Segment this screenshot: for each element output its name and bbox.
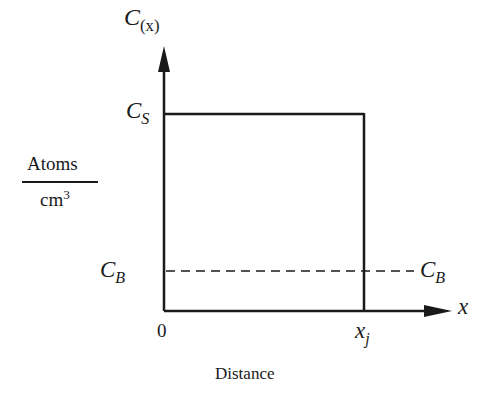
unit-numerator: Atoms xyxy=(27,153,78,175)
surface-concentration-label: CS xyxy=(126,98,149,128)
x-axis-caption: Distance xyxy=(215,364,274,384)
y-axis-arrow-icon xyxy=(158,46,170,72)
y-axis-label: C(x) xyxy=(124,4,160,36)
x-axis xyxy=(164,305,452,317)
origin-tick-label: 0 xyxy=(157,320,167,342)
x-axis-label: x xyxy=(458,294,468,320)
x-axis-arrow-icon xyxy=(424,305,452,317)
concentration-profile xyxy=(164,113,364,311)
unit-denominator: cm3 xyxy=(40,187,70,211)
diagram-canvas xyxy=(0,0,492,395)
background-concentration-label: CB xyxy=(100,257,125,287)
background-concentration-label-right: CB xyxy=(420,257,445,287)
junction-depth-label: xj xyxy=(355,318,370,348)
